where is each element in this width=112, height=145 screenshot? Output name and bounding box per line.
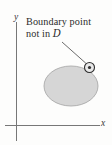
annotation-line-2-prefix: not in	[26, 28, 53, 39]
boundary-point-dot-icon	[88, 66, 91, 69]
boundary-point-annotation: Boundary point not in D	[26, 16, 104, 40]
x-axis-label: x	[101, 118, 105, 128]
annotation-line-1: Boundary point	[26, 16, 104, 28]
region-symbol-d: D	[53, 28, 61, 39]
y-axis-label: y	[14, 12, 18, 22]
annotation-line-2: not in D	[26, 28, 104, 40]
leader-line	[62, 42, 86, 63]
figure-container: Boundary point not in D y x	[0, 0, 112, 145]
